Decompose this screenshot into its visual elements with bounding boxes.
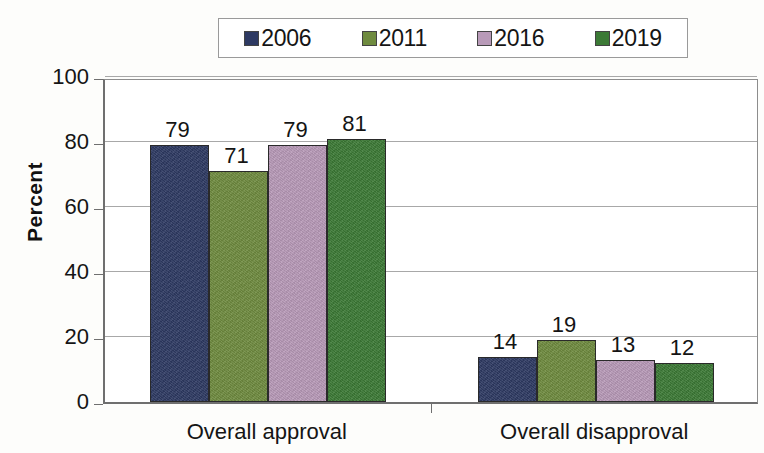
bar-value-2006-disapproval: 14 <box>476 329 535 355</box>
legend-swatch-2019-icon <box>595 31 610 46</box>
bar-value-2006-approval: 79 <box>148 117 207 143</box>
chart-legend: 2006 2011 2016 2019 <box>218 18 688 58</box>
y-tick-mark-40 <box>94 274 103 275</box>
y-tick-label-80: 80 <box>65 129 89 155</box>
bar-value-2016-disapproval: 13 <box>594 332 653 358</box>
gridline-100 <box>105 76 757 77</box>
y-tick-label-40: 40 <box>65 259 89 285</box>
y-tick-mark-80 <box>94 144 103 145</box>
y-tick-label-0: 0 <box>77 389 89 415</box>
bar-value-2019-disapproval: 12 <box>653 335 712 361</box>
y-tick-label-60: 60 <box>65 194 89 220</box>
legend-item-2011: 2011 <box>362 27 427 50</box>
bar-2016-disapproval <box>596 360 655 402</box>
bar-value-2011-approval: 71 <box>207 143 266 169</box>
bar-value-2016-approval: 79 <box>266 117 325 143</box>
bar-2006-approval <box>150 145 209 402</box>
bar-2019-approval <box>327 139 386 402</box>
legend-label-2019: 2019 <box>612 27 662 50</box>
bar-2019-disapproval <box>655 363 714 402</box>
legend-item-2006: 2006 <box>244 27 311 50</box>
legend-label-2016: 2016 <box>494 27 544 50</box>
bar-2016-approval <box>268 145 327 402</box>
bar-value-2019-approval: 81 <box>325 111 384 137</box>
y-tick-label-20: 20 <box>65 324 89 350</box>
x-category-label-approval: Overall approval <box>103 419 431 445</box>
legend-label-2006: 2006 <box>261 27 311 50</box>
bar-value-2011-disapproval: 19 <box>535 312 594 338</box>
legend-swatch-2006-icon <box>244 31 259 46</box>
legend-item-2019: 2019 <box>595 27 662 50</box>
y-tick-label-100: 100 <box>52 64 89 90</box>
y-tick-mark-20 <box>94 339 103 340</box>
bar-2011-disapproval <box>537 340 596 402</box>
x-category-label-disapproval: Overall disapproval <box>431 419 759 445</box>
legend-swatch-2011-icon <box>362 31 377 46</box>
bar-2006-disapproval <box>478 357 537 403</box>
x-tick-mark-1 <box>431 404 432 413</box>
y-tick-mark-100 <box>94 79 103 80</box>
legend-label-2011: 2011 <box>379 27 427 50</box>
y-tick-mark-60 <box>94 209 103 210</box>
bar-2011-approval <box>209 171 268 402</box>
y-axis-title: Percent <box>23 147 47 257</box>
legend-item-2016: 2016 <box>477 27 544 50</box>
legend-swatch-2016-icon <box>477 31 492 46</box>
y-tick-mark-0 <box>94 404 103 405</box>
